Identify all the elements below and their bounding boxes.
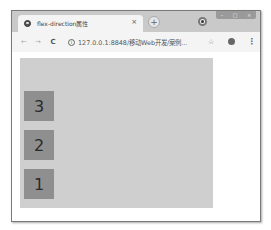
tab-flex-direction[interactable]: flex-direction属性 × bbox=[18, 15, 143, 32]
back-button[interactable]: ← bbox=[18, 38, 30, 46]
window-controls: – □ × bbox=[216, 11, 256, 19]
flex-item-1: 1 bbox=[24, 169, 54, 199]
flex-item-3: 3 bbox=[24, 91, 54, 121]
minimize-button[interactable]: – bbox=[221, 11, 224, 19]
flex-container: 1 2 3 bbox=[20, 58, 213, 208]
tab-strip: flex-direction属性 × + – □ × bbox=[12, 11, 260, 32]
browser-toolbar: ← → C i 127.0.0.1:8848/移动Web开发/案例... ☆ ⋮ bbox=[12, 32, 260, 52]
page-viewport: 1 2 3 bbox=[12, 52, 260, 221]
close-tab-icon[interactable]: × bbox=[131, 18, 137, 26]
reload-button[interactable]: C bbox=[47, 38, 59, 46]
profile-indicator-icon[interactable] bbox=[198, 17, 207, 26]
bookmark-star-icon[interactable]: ☆ bbox=[208, 38, 214, 46]
flex-item-2: 2 bbox=[24, 130, 54, 160]
browser-menu-button[interactable]: ⋮ bbox=[248, 37, 256, 46]
close-window-button[interactable]: × bbox=[247, 11, 251, 19]
maximize-button[interactable]: □ bbox=[233, 11, 238, 19]
forward-button[interactable]: → bbox=[32, 38, 44, 46]
tab-title: flex-direction属性 bbox=[37, 19, 88, 28]
browser-window: flex-direction属性 × + – □ × ← → C i 127.0… bbox=[11, 10, 261, 222]
site-info-icon[interactable]: i bbox=[68, 39, 75, 46]
new-tab-button[interactable]: + bbox=[148, 16, 160, 28]
account-avatar[interactable] bbox=[228, 38, 235, 45]
globe-icon bbox=[24, 20, 31, 27]
address-bar[interactable]: 127.0.0.1:8848/移动Web开发/案例... bbox=[78, 38, 187, 47]
